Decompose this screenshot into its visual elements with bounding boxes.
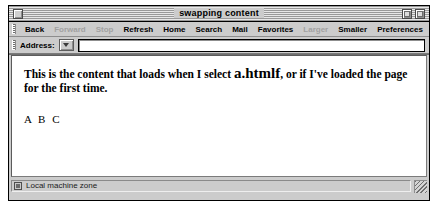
toolbar-button-back[interactable]: Back <box>20 23 49 36</box>
collapse-box-inner <box>417 11 423 17</box>
toolbar-button-stop: Stop <box>91 23 119 36</box>
paragraph-emphasis-filename: a.htmlf <box>234 65 280 81</box>
address-toolbar: Address: <box>9 37 429 54</box>
chevron-down-icon <box>63 43 69 47</box>
status-zone-field: Local machine zone <box>11 180 411 192</box>
close-box-button[interactable] <box>13 9 23 19</box>
toolbar-button-larger: Larger <box>298 23 333 36</box>
toolbar-button-preferences[interactable]: Preferences <box>372 23 428 36</box>
content-letters-line: A B C <box>24 113 414 125</box>
status-zone-text: Local machine zone <box>26 181 97 191</box>
address-label: Address: <box>20 41 55 50</box>
security-zone-icon <box>14 182 22 190</box>
zoom-box-button[interactable] <box>402 9 412 19</box>
toolbar-button-smaller[interactable]: Smaller <box>333 23 372 36</box>
paragraph-text-before: This is the content that loads when I se… <box>24 68 234 80</box>
toolbar-button-mail[interactable]: Mail <box>227 23 253 36</box>
toolbar-button-home[interactable]: Home <box>158 23 190 36</box>
page-content: This is the content that loads when I se… <box>11 55 427 177</box>
content-area-wrapper: This is the content that loads when I se… <box>9 55 429 177</box>
address-bar-drag-grip[interactable] <box>12 40 16 50</box>
collapse-box-button[interactable] <box>415 9 425 19</box>
browser-window: swapping content Back Forward Stop Refre… <box>8 5 430 201</box>
toolbar-button-forward: Forward <box>49 23 91 36</box>
resize-grip[interactable] <box>414 180 427 193</box>
address-input[interactable] <box>78 39 425 52</box>
toolbar-button-refresh[interactable]: Refresh <box>118 23 158 36</box>
address-history-dropdown-button[interactable] <box>59 39 74 51</box>
button-toolbar: Back Forward Stop Refresh Home Search Ma… <box>9 22 429 37</box>
title-bar-pinstripes <box>9 6 429 21</box>
status-bar: Local machine zone <box>9 177 429 195</box>
zoom-box-inner <box>404 11 410 17</box>
toolbar-button-search[interactable]: Search <box>191 23 228 36</box>
window-title-bar[interactable]: swapping content <box>9 6 429 22</box>
toolbar-button-favorites[interactable]: Favorites <box>253 23 299 36</box>
content-paragraph: This is the content that loads when I se… <box>24 66 414 95</box>
toolbar-drag-grip[interactable] <box>12 24 16 34</box>
toolbar-area: Back Forward Stop Refresh Home Search Ma… <box>9 22 429 55</box>
